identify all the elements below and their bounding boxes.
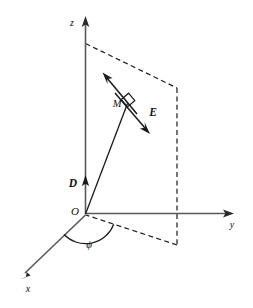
- point-m-label: M: [112, 98, 123, 109]
- dashed-plane: [86, 44, 178, 246]
- origin-to-m-line: [86, 104, 128, 215]
- vector-e-label: E: [148, 106, 157, 118]
- right-angle-square: [121, 93, 135, 107]
- y-axis: [86, 210, 235, 218]
- coordinate-diagram: z y x O D E M ϕ: [0, 0, 253, 308]
- x-axis-arrowhead: [19, 272, 31, 280]
- z-axis-label: z: [69, 17, 74, 28]
- x-axis: [19, 215, 86, 280]
- right-angle-marker: [121, 93, 135, 107]
- y-axis-label: y: [229, 219, 235, 230]
- m-vector-line: [107, 78, 137, 114]
- phi-angle-label: ϕ: [86, 238, 92, 250]
- origin-label: O: [71, 205, 79, 217]
- vector-d-label: D: [68, 177, 78, 189]
- x-axis-label: x: [25, 283, 31, 294]
- figure-canvas: z y x O D E M ϕ: [0, 0, 253, 308]
- plane-top-edge: [86, 44, 178, 89]
- x-axis-line: [25, 215, 86, 273]
